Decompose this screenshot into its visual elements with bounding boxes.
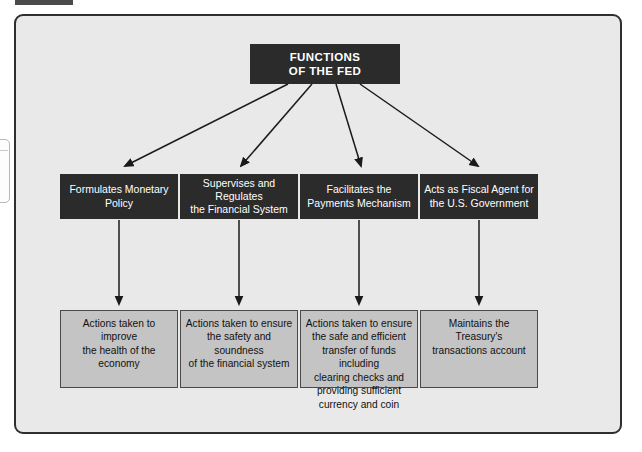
detail-box-payments-line6: currency and coin — [305, 398, 413, 411]
scan-artifact-top-bar — [15, 0, 73, 5]
function-box-supervision-line1: Supervises and Regulates — [184, 177, 294, 203]
function-box-supervision: Supervises and Regulates the Financial S… — [180, 174, 298, 219]
detail-box-payments-line5: providing sufficient — [305, 384, 413, 397]
scan-artifact-left-figure — [0, 139, 10, 203]
function-box-monetary-policy-line2: Policy — [69, 197, 168, 210]
detail-box-monetary-policy-line2: the health of the economy — [65, 344, 173, 371]
detail-box-supervision: Actions taken to ensure the safety and s… — [180, 310, 298, 388]
detail-box-supervision-line2: the safety and soundness — [185, 330, 293, 357]
detail-box-payments-line1: Actions taken to ensure — [305, 317, 413, 330]
detail-box-payments: Actions taken to ensure the safe and eff… — [300, 310, 418, 388]
detail-box-fiscal-agent-line2: transactions account — [425, 344, 533, 357]
function-box-supervision-line2: the Financial System — [184, 203, 294, 216]
detail-box-fiscal-agent-line1: Maintains the Treasury's — [425, 317, 533, 344]
function-box-payments: Facilitates the Payments Mechanism — [300, 174, 418, 219]
function-box-monetary-policy: Formulates Monetary Policy — [60, 174, 178, 219]
detail-box-payments-line2: the safe and efficient — [305, 330, 413, 343]
function-box-fiscal-agent: Acts as Fiscal Agent for the U.S. Govern… — [420, 174, 538, 219]
detail-box-payments-line3: transfer of funds including — [305, 344, 413, 371]
detail-box-monetary-policy: Actions taken to improve the health of t… — [60, 310, 178, 388]
detail-box-supervision-line1: Actions taken to ensure — [185, 317, 293, 330]
function-box-fiscal-agent-line1: Acts as Fiscal Agent for — [424, 183, 534, 196]
function-box-payments-line2: Payments Mechanism — [307, 197, 410, 210]
figure-panel: FUNCTIONS OF THE FED Formulates Monetary… — [14, 14, 622, 434]
function-box-monetary-policy-line1: Formulates Monetary — [69, 183, 168, 196]
detail-box-fiscal-agent: Maintains the Treasury's transactions ac… — [420, 310, 538, 388]
function-box-fiscal-agent-line2: the U.S. Government — [424, 197, 534, 210]
detail-box-payments-line4: clearing checks and — [305, 371, 413, 384]
diagram-title-line2: OF THE FED — [289, 65, 361, 77]
function-box-payments-line1: Facilitates the — [307, 183, 410, 196]
scan-artifact-left-line — [0, 150, 8, 151]
diagram-title-box: FUNCTIONS OF THE FED — [250, 44, 400, 84]
detail-box-monetary-policy-line1: Actions taken to improve — [65, 317, 173, 344]
detail-box-supervision-line3: of the financial system — [185, 357, 293, 370]
diagram-title-line1: FUNCTIONS — [290, 51, 361, 63]
